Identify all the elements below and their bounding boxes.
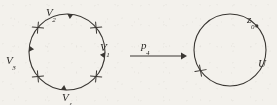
label-v1: V1 <box>100 38 110 57</box>
label-basepoint-z0: z0 <box>247 10 255 29</box>
left-circle-group <box>29 14 105 90</box>
left-circle-path <box>29 14 105 90</box>
label-v3: V3 <box>6 51 16 70</box>
label-map-p4: p4 <box>141 36 150 55</box>
right-circle-path <box>194 14 266 86</box>
figure-canvas: V2 V1 V3 V4 p4 z0 U <box>0 0 277 105</box>
left-circle-cross-marks <box>32 22 101 82</box>
right-circle-group <box>194 14 266 86</box>
figure-drawing <box>0 0 277 105</box>
label-v4: V4 <box>62 88 72 105</box>
basepoint-dot <box>255 24 258 27</box>
map-arrow-group <box>130 52 187 59</box>
right-circle-cross-marks <box>195 65 206 76</box>
label-v2: V2 <box>46 3 56 22</box>
label-set-u: U <box>258 54 266 70</box>
map-arrow-head <box>181 52 187 59</box>
